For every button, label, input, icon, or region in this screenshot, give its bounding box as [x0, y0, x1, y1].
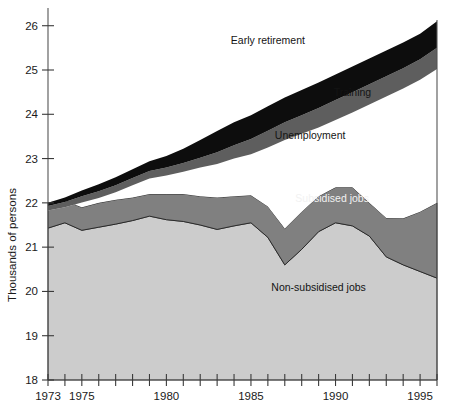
y-tick-label: 19	[25, 330, 38, 342]
y-tick-label: 20	[25, 285, 38, 297]
x-tick-label: 1980	[154, 390, 180, 402]
y-tick-label: 23	[25, 153, 38, 165]
x-tick-label: 1985	[238, 390, 264, 402]
x-tick-label: 1975	[69, 390, 95, 402]
series-label-subsidised-jobs: Subsidised jobs	[295, 192, 369, 204]
series-label-early-retirement: Early retirement	[231, 34, 305, 46]
series-label-non-subsidised-jobs: Non-subsidised jobs	[271, 281, 366, 293]
y-tick-label: 22	[25, 197, 38, 209]
y-tick-label: 21	[25, 241, 38, 253]
y-axis-title: Thousands of persons	[6, 188, 18, 302]
y-tick-label: 24	[25, 108, 38, 120]
y-tick-label: 26	[25, 20, 38, 32]
y-tick-label: 25	[25, 64, 38, 76]
stacked-area-chart: 181920212223242526 197319751980198519901…	[0, 0, 452, 419]
x-tick-label: 1973	[35, 390, 61, 402]
x-tick-label: 1995	[407, 390, 433, 402]
y-tick-label: 18	[25, 374, 38, 386]
series-label-unemployment: Unemployment	[275, 129, 346, 141]
x-tick-label: 1990	[323, 390, 349, 402]
chart-page: 181920212223242526 197319751980198519901…	[0, 0, 452, 419]
series-label-training: Training	[334, 86, 372, 98]
